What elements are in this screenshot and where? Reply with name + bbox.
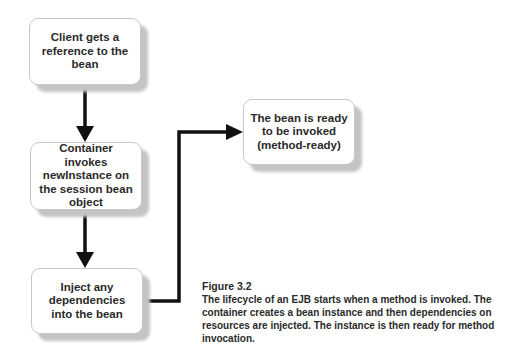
figure-caption: Figure 3.2 The lifecycle of an EJB start…: [202, 280, 520, 345]
node-label: Inject any dependencies into the bean: [38, 281, 136, 322]
node-method-ready: The bean is ready to be invoked (method-…: [243, 99, 355, 165]
node-container-invokes-newinstance: Container invokes newInstance on the ses…: [30, 142, 142, 210]
arrow-box3-to-box4: [143, 124, 243, 301]
arrow-box2-to-box3: [76, 210, 94, 268]
node-label: The bean is ready to be invoked (method-…: [250, 112, 348, 153]
arrow-box1-to-box2: [76, 85, 94, 142]
node-label: Client gets a reference to the bean: [36, 31, 134, 72]
node-label: Container invokes newInstance on the ses…: [37, 142, 135, 210]
node-client-gets-reference: Client gets a reference to the bean: [29, 18, 141, 85]
node-inject-dependencies: Inject any dependencies into the bean: [31, 268, 143, 334]
caption-text: The lifecycle of an EJB starts when a me…: [202, 294, 494, 344]
figure-label: Figure 3.2: [202, 280, 520, 293]
